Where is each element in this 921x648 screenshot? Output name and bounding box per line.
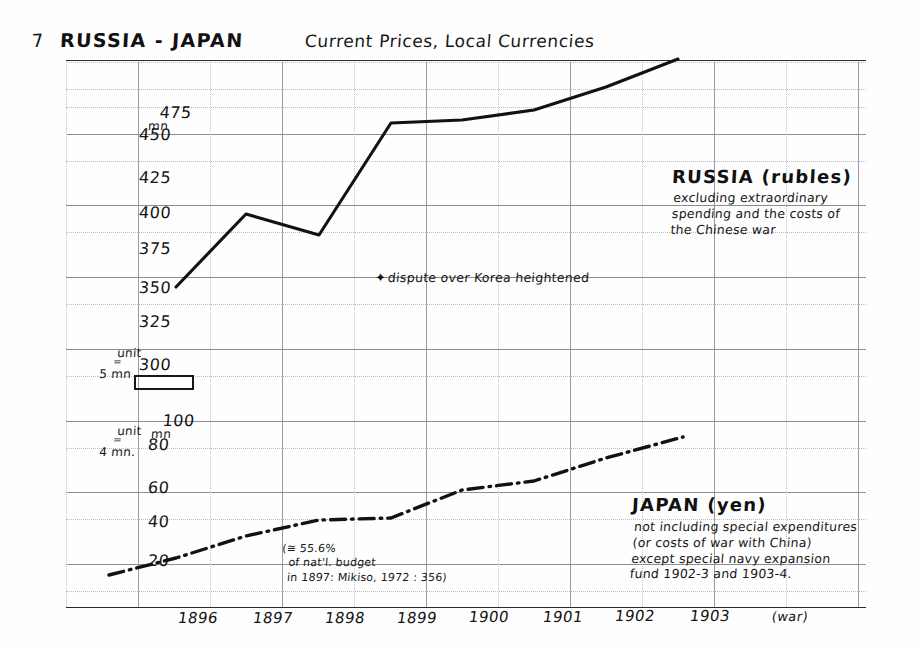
x-tick-1899: 1899 xyxy=(396,609,438,627)
x-tick-1896: 1896 xyxy=(177,609,219,627)
japan-budget-footnote: (≅ 55.6% of nat'l. budget in 1897: Mikis… xyxy=(279,542,450,585)
y-tick-350: 350 xyxy=(138,278,172,297)
x-axis-baseline xyxy=(66,607,866,608)
series-russia-line xyxy=(176,59,678,287)
x-tick-1902: 1902 xyxy=(614,607,656,625)
x-tick-1903: 1903 xyxy=(689,607,731,625)
y-tick-80: 80 xyxy=(147,435,170,454)
page-title: RUSSIA - JAPAN xyxy=(59,29,244,51)
y-tick-425: 425 xyxy=(138,168,172,187)
page-number: 7 xyxy=(31,30,44,52)
x-tick-1898: 1898 xyxy=(324,609,366,627)
russia-series-label: RUSSIA (rubles) xyxy=(671,166,852,187)
x-tick-1900: 1900 xyxy=(468,608,510,626)
x-tick-1901: 1901 xyxy=(542,608,584,626)
notebook-page: 7 RUSSIA - JAPAN Current Prices, Local C… xyxy=(0,0,921,648)
japan-series-note: not including special expenditures (or c… xyxy=(629,519,858,582)
korea-star-icon: ✦ xyxy=(375,270,386,285)
page-subtitle: Current Prices, Local Currencies xyxy=(304,31,595,51)
korea-annotation: dispute over Korea heightened xyxy=(387,270,590,285)
x-axis-end-label: (war) xyxy=(771,609,809,624)
header-rule xyxy=(66,60,866,61)
y-tick-40: 40 xyxy=(147,512,170,531)
y-tick-400: 400 xyxy=(138,203,172,222)
y-tick-20: 20 xyxy=(147,551,170,570)
y-tick-60: 60 xyxy=(147,478,170,497)
russia-series-note: excluding extraordinary spending and the… xyxy=(670,190,842,237)
japan-series-label: JAPAN (yen) xyxy=(631,494,767,515)
y-tick-450: 450 xyxy=(138,125,172,144)
y-tick-325: 325 xyxy=(138,312,172,331)
y-tick-300: 300 xyxy=(138,355,172,374)
x-tick-1897: 1897 xyxy=(252,609,294,627)
y-tick-375: 375 xyxy=(138,239,172,258)
scale-break-bracket-lower xyxy=(134,376,196,390)
